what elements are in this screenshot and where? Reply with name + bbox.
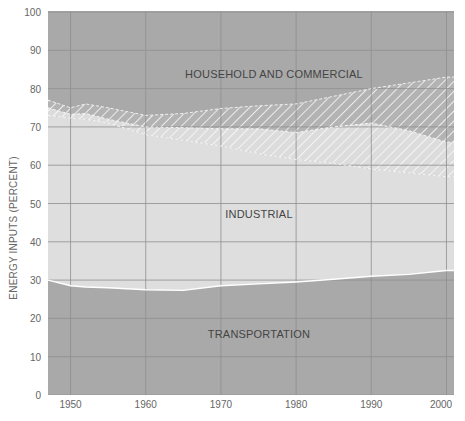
y-tick-label: 0 (35, 390, 41, 401)
x-tick-label: 1960 (135, 399, 158, 410)
x-tick-label: 1990 (360, 399, 383, 410)
label-transportation: TRANSPORTATION (208, 328, 310, 340)
x-tick-label: 2000 (430, 399, 453, 410)
label-household-commercial: HOUSEHOLD AND COMMERCIAL (185, 68, 363, 80)
x-tick-label: 1970 (210, 399, 233, 410)
label-industrial: INDUSTRIAL (225, 208, 292, 220)
y-tick-label: 10 (30, 352, 42, 363)
y-axis-label: ENERGY INPUTS (PERCENT) (8, 156, 19, 299)
y-tick-label: 20 (30, 313, 42, 324)
energy-inputs-chart: 0102030405060708090100 19501960197019801… (0, 0, 465, 421)
y-tick-label: 40 (30, 237, 42, 248)
y-tick-label: 50 (30, 199, 42, 210)
y-tick-label: 90 (30, 45, 42, 56)
y-axis-ticks: 0102030405060708090100 (24, 7, 41, 401)
x-tick-label: 1950 (59, 399, 82, 410)
y-tick-label: 80 (30, 84, 42, 95)
y-tick-label: 30 (30, 275, 42, 286)
x-axis-ticks: 195019601970198019902000 (59, 399, 452, 410)
y-tick-label: 100 (24, 7, 41, 18)
x-tick-label: 1980 (285, 399, 308, 410)
y-tick-label: 60 (30, 160, 42, 171)
y-tick-label: 70 (30, 122, 42, 133)
